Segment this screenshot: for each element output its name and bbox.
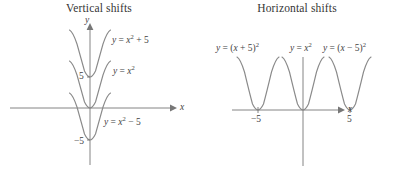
curve-label-exponent: 2 [132, 64, 135, 71]
curve-label-eq: = [117, 66, 127, 76]
tick-label-y-5: 5 [79, 71, 84, 81]
curve-label-suffix: − 5 [126, 117, 141, 127]
x-axis-arrow-icon [338, 107, 345, 114]
curve-label-suffix: + 5 [134, 35, 149, 45]
curve-label-y-eq-x2-minus-5: y = x2 − 5 [104, 117, 141, 127]
panel-horizontal-shifts: Horizontal shifts x −5 5 y = (x + 5)2 [198, 0, 396, 176]
curve-label-mid: − 5) [345, 43, 363, 53]
curve-label-eq: = [294, 43, 304, 53]
panel-vertical-shifts: Vertical shifts x y 5 −5 y = x2 + 5 [0, 0, 198, 176]
plot-horizontal-shifts [198, 0, 396, 176]
curve-label-mid: + 5) [238, 43, 256, 53]
curve-label-exponent: 2 [256, 41, 259, 48]
x-axis-arrow-icon [170, 105, 177, 112]
y-axis-label: y [85, 15, 89, 25]
curve-label-eq: = ( [327, 43, 340, 53]
curve-label-y-eq-x2: y = x2 [290, 43, 312, 53]
curve-label-y-eq-x2-plus-5: y = x2 + 5 [112, 35, 149, 45]
tick-label-x-5: 5 [347, 114, 352, 124]
curve-label-eq: = ( [220, 43, 233, 53]
curve-label-y-eq-x-plus-5-squared: y = (x + 5)2 [216, 43, 259, 53]
curve-y-eq-x-minus-5-squared [329, 57, 371, 110]
curve-label-y-eq-x-minus-5-squared: y = (x − 5)2 [323, 43, 366, 53]
x-axis-label: x [348, 104, 352, 114]
curve-label-eq: = [108, 117, 118, 127]
tick-label-y-minus-5: −5 [74, 136, 84, 146]
plot-vertical-shifts [0, 0, 198, 176]
x-axis-label: x [180, 102, 184, 112]
curve-label-exponent: 2 [363, 41, 366, 48]
shifts-figure: Vertical shifts x y 5 −5 y = x2 + 5 [0, 0, 396, 176]
curve-y-eq-x-plus-5-squared [237, 57, 279, 110]
tick-label-x-minus-5: −5 [251, 114, 261, 124]
curve-label-y-eq-x2: y = x2 [113, 66, 135, 76]
curve-label-exponent: 2 [309, 41, 312, 48]
curve-label-eq: = [116, 35, 126, 45]
